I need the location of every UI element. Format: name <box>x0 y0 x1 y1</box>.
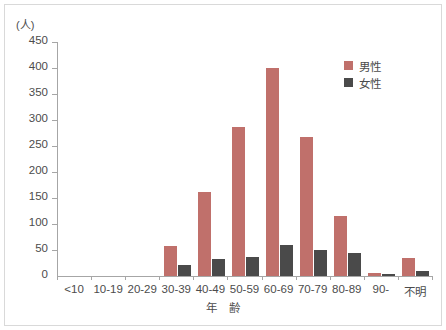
y-axis-tick-label: 50 <box>35 242 48 254</box>
chart-legend: 男性女性 <box>344 58 381 92</box>
bar-male <box>164 246 177 276</box>
bar-male <box>368 273 381 276</box>
x-axis-tick-mark <box>227 276 228 280</box>
legend-swatch-icon <box>344 78 353 87</box>
x-axis-tick-mark <box>398 276 399 280</box>
bar-male <box>266 68 279 276</box>
y-axis-unit-label: (人) <box>16 16 34 32</box>
bar-female <box>314 250 327 276</box>
bar-female <box>246 257 259 276</box>
x-axis-tick-label: 60-69 <box>262 283 296 295</box>
legend-swatch-icon <box>344 61 353 70</box>
x-axis-tick-mark <box>159 276 160 280</box>
bar-female <box>178 265 191 276</box>
y-axis-tick-label: 0 <box>42 268 48 280</box>
bar-female <box>212 259 225 276</box>
legend-item-label: 女性 <box>359 75 381 91</box>
legend-item: 男性 <box>344 58 381 73</box>
x-axis-tick-label: 30-39 <box>159 283 193 295</box>
legend-item: 女性 <box>344 75 381 90</box>
x-axis-tick-mark <box>125 276 126 280</box>
bar-male <box>402 258 415 276</box>
legend-item-label: 男性 <box>359 58 381 74</box>
x-axis-tick-label: 20-29 <box>125 283 159 295</box>
bar-male <box>232 127 245 276</box>
bar-chart-figure: (人) 050100150200250300350400450 <1010-19… <box>0 0 446 330</box>
x-axis-title: 年 齢 <box>0 299 446 315</box>
x-axis-tick-label: 10-19 <box>91 283 125 295</box>
y-axis-tick-label: 150 <box>29 190 48 202</box>
x-axis-tick-label: 80-89 <box>330 283 364 295</box>
x-axis-tick-mark <box>296 276 297 280</box>
bar-female <box>382 274 395 276</box>
y-axis-tick-label: 350 <box>29 86 48 98</box>
bar-female <box>348 253 361 276</box>
x-axis-tick-mark <box>91 276 92 280</box>
bar-female <box>416 271 429 276</box>
x-axis-tick-label: 70-79 <box>296 283 330 295</box>
y-axis-tick-label: 100 <box>29 216 48 228</box>
y-axis-tick-label: 200 <box>29 164 48 176</box>
y-axis-tick-label: 400 <box>29 60 48 72</box>
x-axis-tick-mark <box>432 276 433 280</box>
bar-male <box>300 137 313 276</box>
x-axis-tick-label: <10 <box>57 283 91 295</box>
x-axis-tick-mark <box>262 276 263 280</box>
x-axis-tick-label: 90- <box>364 283 398 295</box>
x-axis-tick-mark <box>330 276 331 280</box>
x-axis-tick-label: 不明 <box>398 283 432 299</box>
bar-male <box>198 192 211 276</box>
bar-male <box>334 216 347 276</box>
x-axis-tick-label: 40-49 <box>193 283 227 295</box>
x-axis-tick-label: 50-59 <box>227 283 261 295</box>
x-axis-tick-mark <box>364 276 365 280</box>
x-axis-tick-mark <box>193 276 194 280</box>
y-axis-tick-label: 450 <box>29 34 48 46</box>
y-axis-tick-label: 300 <box>29 112 48 124</box>
x-axis-line <box>57 276 433 277</box>
bar-female <box>280 245 293 276</box>
x-axis-tick-mark <box>57 276 58 280</box>
y-axis-tick-label: 250 <box>29 138 48 150</box>
